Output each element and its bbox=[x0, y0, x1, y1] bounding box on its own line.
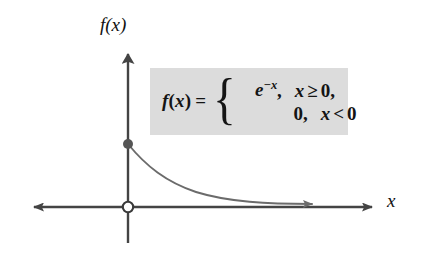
case-separator: , bbox=[277, 80, 282, 102]
case-value-exponential: e−x bbox=[243, 78, 277, 101]
case-separator: , bbox=[303, 103, 308, 125]
formula-left-hand-side: f(x) bbox=[162, 90, 191, 112]
piecewise-case-row: 0, x<0 bbox=[243, 103, 357, 125]
case-condition: x≥0 bbox=[295, 80, 330, 102]
x-axis-label: x bbox=[387, 190, 395, 212]
exponential-decay-curve bbox=[128, 144, 312, 204]
case-value-zero: 0 bbox=[269, 103, 303, 125]
formula-expression: f(x) = { e−x, x≥0, 0, x<0 bbox=[162, 78, 357, 126]
case-relation-operator: ≥ bbox=[307, 80, 317, 101]
case-condition-variable: x bbox=[321, 103, 331, 124]
case-value-exponent: −x bbox=[264, 78, 277, 92]
open-point-marker bbox=[123, 202, 133, 212]
formula-callout-box: f(x) = { e−x, x≥0, 0, x<0 bbox=[150, 68, 348, 135]
exponential-decay-figure: f(x) x f(x) = { e−x, x≥0, 0, x<0 bbox=[0, 0, 421, 260]
case-relation-operator: < bbox=[333, 103, 344, 124]
case-value-base: e bbox=[255, 80, 263, 101]
y-axis-label: f(x) bbox=[100, 14, 126, 36]
closed-point-marker bbox=[123, 139, 133, 149]
case-condition-variable: x bbox=[295, 80, 305, 101]
equals-sign: = bbox=[195, 90, 206, 112]
piecewise-brace: { bbox=[213, 78, 236, 122]
piecewise-case-row: e−x, x≥0, bbox=[243, 78, 357, 101]
case-condition-value: 0 bbox=[321, 80, 331, 101]
case-condition-value: 0 bbox=[347, 103, 357, 124]
case-condition: x<0 bbox=[321, 103, 357, 125]
case-trailing-comma: , bbox=[330, 80, 335, 102]
piecewise-cases: e−x, x≥0, 0, x<0 bbox=[243, 78, 357, 124]
